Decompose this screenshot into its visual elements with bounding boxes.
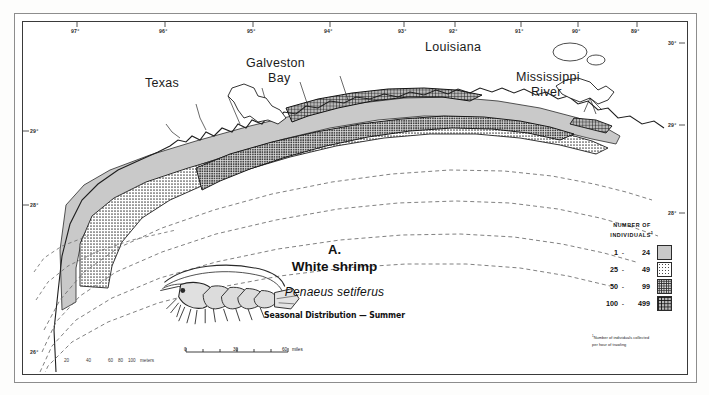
legend-footnote: 1Number of individuals collected per hou… [592, 334, 678, 347]
depth-label-80: 80 [118, 358, 123, 363]
legend-low-4: 100 [592, 299, 618, 308]
legend-title-marker: 1 [651, 230, 654, 235]
longitude-tick-96: 96° [159, 28, 167, 34]
legend-dash-4: - [618, 300, 628, 307]
latitude-tick-right-28: 28° [668, 210, 676, 216]
longitude-tick-92: 92° [449, 28, 457, 34]
place-label-texas: Texas [145, 76, 179, 90]
legend-row: 50 - 99 [592, 278, 672, 295]
legend-swatch-cross-hatch [657, 296, 672, 311]
legend-row: 1 - 24 [592, 244, 672, 261]
seasonal-distribution-subtitle: Seasonal Distribution — Summer [246, 310, 422, 320]
longitude-tick-89: 89° [631, 28, 639, 34]
legend-dash-2: - [618, 266, 628, 273]
scale-tick-30: 30 [233, 347, 238, 352]
legend-high-2: 49 [628, 265, 650, 274]
scale-units: miles [292, 347, 303, 352]
legend-title-line2: INDIVIDUALS [610, 232, 651, 238]
depth-label-20: 20 [64, 358, 69, 363]
panel-letter: A. [232, 243, 437, 258]
scale-bar: 0 30 60 miles [184, 347, 292, 355]
longitude-tick-90: 90° [572, 28, 580, 34]
species-common-name: White shrimp [232, 259, 437, 274]
place-label-river: River [531, 85, 562, 99]
legend-dash-1: - [618, 249, 628, 256]
legend-low-3: 50 [592, 282, 618, 291]
lake-pontchartrain [553, 43, 587, 61]
depth-label-40: 40 [86, 358, 91, 363]
scale-bar-labels: 0 30 60 miles [184, 347, 292, 355]
scale-tick-60: 60 [282, 347, 287, 352]
place-label-mississippi: Mississippi [516, 70, 580, 84]
longitude-tick-94: 94° [324, 28, 332, 34]
legend-swatch-medium-stipple [657, 262, 672, 277]
legend-row: 25 - 49 [592, 261, 672, 278]
place-label-bay: Bay [268, 71, 290, 85]
depth-units-label: meters [140, 358, 154, 363]
longitude-tick-93: 93° [398, 28, 406, 34]
legend-footnote-line1: Number of individuals collected [594, 336, 649, 341]
latitude-tick-right-29: 29° [668, 122, 676, 128]
legend-high-3: 99 [628, 282, 650, 291]
legend-row: 100 - 499 [592, 295, 672, 312]
legend-low-2: 25 [592, 265, 618, 274]
galveston-bay [228, 84, 286, 124]
title-block: A. White shrimp Penaeus setiferus Season… [232, 243, 437, 320]
legend-title: NUMBER OF INDIVIDUALS1 [596, 222, 668, 239]
legend-high-4: 499 [628, 299, 650, 308]
latitude-tick-left-29: 29° [30, 128, 38, 134]
map-figure: Texas Galveston Bay Louisiana Mississipp… [0, 0, 709, 395]
legend-low-1: 1 [592, 248, 618, 257]
depth-label-100: 100 [128, 358, 136, 363]
latitude-tick-left-28: 28° [30, 202, 38, 208]
latitude-tick-left-26: 26° [30, 349, 38, 355]
longitude-tick-95: 95° [247, 28, 255, 34]
longitude-tick-97: 97° [71, 28, 79, 34]
longitude-tick-91: 91° [515, 28, 523, 34]
legend-swatch-dense-stipple [657, 279, 672, 294]
legend-dash-3: - [618, 283, 628, 290]
legend-title-line1: NUMBER OF [613, 222, 651, 228]
legend: NUMBER OF INDIVIDUALS1 1 - 24 25 - 49 50… [592, 222, 684, 347]
legend-high-1: 24 [628, 248, 650, 257]
legend-footnote-line2: per hour of trawling [592, 342, 626, 347]
lake-secondary [587, 55, 605, 65]
place-label-louisiana: Louisiana [425, 40, 481, 54]
species-scientific-name: Penaeus setiferus [232, 285, 437, 299]
legend-swatch-light-gray [657, 245, 672, 260]
scale-tick-0: 0 [184, 347, 187, 352]
place-label-galveston: Galveston [246, 56, 305, 70]
depth-label-60: 60 [108, 358, 113, 363]
latitude-tick-right-30: 30° [668, 40, 676, 46]
